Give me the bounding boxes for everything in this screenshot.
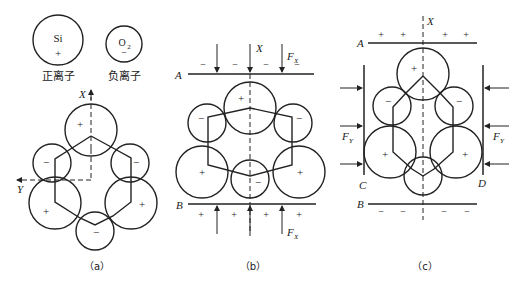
ion-upper-right [435, 87, 473, 125]
ion-upper-left [373, 87, 411, 125]
ion-lower-left [364, 126, 416, 178]
charge-bottom-2: + [231, 209, 237, 220]
sign-bottom: − [93, 226, 99, 238]
plate-d-label: D [477, 177, 486, 189]
negative-ion-legend: O 2 − 负离子 [106, 26, 142, 83]
sign-top: + [77, 118, 83, 130]
sign-upper-left: − [198, 112, 204, 124]
negative-ion-label: 负离子 [108, 69, 141, 83]
plate-b-label: B [176, 199, 183, 211]
quartz-piezoelectric-diagram: Si + 正离子 O 2 − 负离子 X Y + − − + [0, 0, 526, 287]
ion-lower-right [430, 126, 482, 178]
charge-top-3: + [442, 29, 448, 40]
plate-a-label: A [356, 37, 364, 49]
plate-c-label: C [359, 179, 367, 191]
force-label-left: F [341, 130, 349, 142]
charge-bottom-1: + [198, 209, 204, 220]
x-axis-label: X [78, 88, 87, 100]
sign-lower-left: + [382, 148, 388, 160]
sign-lower-right: + [462, 148, 468, 160]
charge-top-1: + [378, 29, 384, 40]
panel-a: X Y + − − + + − （a） [17, 88, 157, 272]
sign-lower-left: + [43, 205, 49, 217]
x-axis-label: X [426, 15, 435, 27]
charge-bottom-3: − [441, 206, 447, 217]
plate-a-label: A [174, 69, 182, 81]
positive-ion-legend: Si + 正离子 [33, 15, 83, 83]
charge-top-3: − [263, 59, 269, 70]
charge-bottom-2: − [400, 206, 406, 217]
plate-b-label: B [357, 198, 364, 210]
sign-upper-right: − [133, 156, 139, 168]
sign-lower-left: + [199, 166, 205, 178]
o-subscript: 2 [127, 43, 131, 51]
force-label-bottom: F [286, 226, 294, 238]
panel-b: A X F X − − − − + − − + + − B + [174, 42, 325, 272]
sign-upper-left: − [385, 95, 391, 107]
positive-sign: + [55, 47, 61, 59]
sign-bottom: − [255, 176, 261, 188]
charge-top-1: − [200, 59, 206, 70]
si-label: Si [53, 32, 62, 44]
ion-upper-left [188, 104, 226, 142]
charge-bottom-3: + [263, 209, 269, 220]
legend: Si + 正离子 O 2 − 负离子 [33, 15, 142, 83]
charge-bottom-4: + [296, 209, 302, 220]
force-label-left-sub: Y [349, 137, 354, 145]
sign-upper-left: − [43, 156, 49, 168]
caption-a: （a） [84, 261, 110, 272]
sign-lower-right: + [139, 198, 145, 210]
charge-top-4: − [294, 59, 300, 70]
charge-top-2: − [232, 59, 238, 70]
charge-top-4: + [463, 29, 469, 40]
positive-ion-label: 正离子 [42, 69, 75, 83]
force-label-right-sub: Y [500, 137, 505, 145]
sign-upper-right: − [296, 112, 302, 124]
sign-top: + [411, 62, 417, 74]
y-axis-label: Y [17, 183, 25, 195]
negative-sign: − [121, 47, 127, 58]
force-label-right: F [492, 130, 500, 142]
sign-lower-right: + [297, 166, 303, 178]
charge-bottom-1: − [378, 206, 384, 217]
force-label-bottom-sub: X [293, 233, 299, 241]
ion-upper-right [274, 104, 312, 142]
sign-top: + [238, 92, 244, 104]
caption-c: （c） [412, 261, 438, 272]
ion-upper-left [33, 144, 71, 182]
sign-upper-right: − [456, 95, 462, 107]
charge-top-2: + [400, 29, 406, 40]
charge-bottom-4: − [464, 206, 470, 217]
panel-c: X A + + + + C D F Y F Y + − [340, 15, 509, 272]
x-axis-label: X [255, 42, 264, 54]
force-label-top: F [286, 50, 294, 62]
caption-b: （b） [240, 261, 266, 272]
